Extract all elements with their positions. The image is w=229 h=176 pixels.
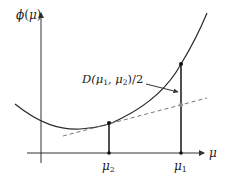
tick-mu2-base: μ <box>102 159 110 173</box>
curve-point-mu1 <box>179 62 183 66</box>
annotation-arrow <box>146 84 178 92</box>
tangent-line <box>63 98 207 136</box>
tangent-point-mu1 <box>179 103 183 107</box>
tick-label-mu1: μ1 <box>174 159 187 174</box>
curve-point-mu2 <box>107 121 111 125</box>
annotation-prefix: D(μ <box>81 72 103 86</box>
annotation-mid: , μ <box>108 72 123 86</box>
axis-point-mu2 <box>107 151 111 155</box>
y-axis-label: ϕ(μ) <box>16 8 41 22</box>
annotation-suffix: )/2 <box>128 72 144 86</box>
tick-label-mu2: μ2 <box>102 159 115 174</box>
tick-mu2-sub: 2 <box>110 165 115 174</box>
y-axis-label-base: ϕ <box>16 8 24 22</box>
tick-mu1-sub: 1 <box>182 165 187 174</box>
tick-mu1-base: μ <box>174 159 182 173</box>
diagram-canvas: ϕ(μ) μ μ2 μ1 D(μ1, μ2)/2 <box>0 0 229 176</box>
y-axis-label-arg: μ <box>29 8 37 22</box>
x-axis-label: μ <box>209 146 217 160</box>
bregman-annotation: D(μ1, μ2)/2 <box>81 72 143 87</box>
axis-point-mu1 <box>179 151 183 155</box>
